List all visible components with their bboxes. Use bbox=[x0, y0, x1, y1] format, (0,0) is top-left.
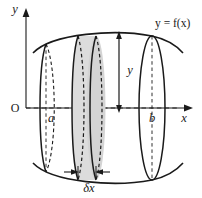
origin-label: O bbox=[11, 101, 20, 115]
radius-measure-arrow bbox=[116, 31, 122, 113]
y-axis-label: y bbox=[10, 2, 18, 16]
thickness-label: δx bbox=[83, 181, 95, 195]
upper-curve-fx bbox=[33, 33, 183, 53]
x-axis-label: x bbox=[180, 111, 187, 125]
elemental-disc bbox=[72, 36, 106, 180]
y-axis-arrowhead bbox=[23, 8, 30, 17]
curve-label: y = f(x) bbox=[155, 17, 190, 30]
radius-label: y bbox=[125, 63, 133, 77]
upper-limit-label: b bbox=[149, 111, 155, 125]
lower-curve-mirror bbox=[33, 163, 183, 183]
figure-container: y x O a b y δx y = f(x) bbox=[0, 0, 202, 198]
lower-limit-label: a bbox=[48, 111, 54, 125]
radius-arrowhead-bottom bbox=[116, 105, 122, 113]
solid-of-revolution-diagram: y x O a b y δx y = f(x) bbox=[0, 0, 202, 198]
